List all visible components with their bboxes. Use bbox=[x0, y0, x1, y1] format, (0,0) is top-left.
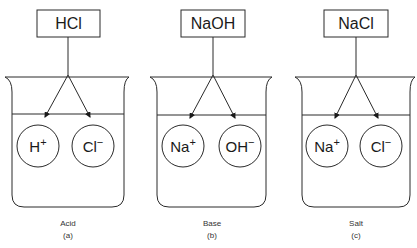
compound-formula: NaOH bbox=[191, 15, 235, 32]
ion-label-anion: OH− bbox=[226, 136, 255, 155]
ion-label-anion: Cl− bbox=[371, 136, 392, 155]
panel-label: (b) bbox=[207, 231, 217, 240]
compound-formula: NaCl bbox=[338, 15, 374, 32]
arrow-to-anion bbox=[356, 75, 378, 118]
panel-caption: Salt bbox=[349, 219, 364, 228]
arrow-to-cation bbox=[190, 75, 213, 118]
arrow-to-cation bbox=[45, 75, 68, 117]
compound-formula: HCl bbox=[55, 15, 82, 32]
ion-label-anion: Cl− bbox=[83, 136, 104, 155]
beaker bbox=[5, 77, 129, 207]
panel-label: (a) bbox=[63, 231, 73, 240]
panel-caption: Acid bbox=[60, 219, 76, 228]
arrow-to-anion bbox=[68, 75, 90, 117]
panel-base: NaOH Na+ OH− Base (b) bbox=[150, 10, 272, 240]
ion-label-cation: H+ bbox=[29, 136, 46, 155]
beaker bbox=[295, 77, 415, 207]
panel-caption: Base bbox=[203, 219, 222, 228]
panel-acid: HCl H+ Cl− Acid (a) bbox=[5, 10, 129, 240]
dissociation-diagram: HCl H+ Cl− Acid (a) NaOH Na+ OH− Base (b… bbox=[0, 0, 417, 248]
panel-label: (c) bbox=[351, 231, 361, 240]
arrow-to-cation bbox=[335, 75, 356, 118]
ion-label-cation: Na+ bbox=[170, 136, 196, 155]
panel-salt: NaCl Na+ Cl− Salt (c) bbox=[295, 10, 415, 240]
ion-label-cation: Na+ bbox=[314, 136, 340, 155]
arrow-to-anion bbox=[213, 75, 235, 118]
